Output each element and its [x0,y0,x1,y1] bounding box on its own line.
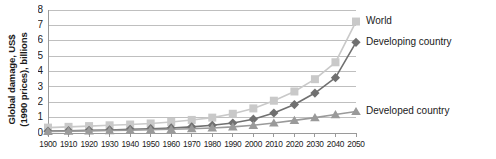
y-tick-label: 3 [38,81,43,92]
y-axis-title-line2: (1990 prices), billions [18,32,30,126]
x-tick-label: 1950 [142,139,160,149]
y-tick-label: 5 [38,50,43,61]
x-tick-label: 1960 [163,139,181,149]
data-point-marker [208,114,216,122]
y-tick-label: 8 [38,4,43,15]
series-line [48,22,356,128]
data-point-marker [270,97,278,105]
plot-area-wrapper: 0123456781900191019201930194019501960197… [38,0,496,159]
x-tick-label: 1900 [39,139,57,149]
data-point-marker [351,107,361,115]
y-tick-label: 4 [38,65,43,76]
y-tick-label: 2 [38,96,43,107]
x-tick-label: 2050 [347,139,365,149]
data-point-marker [331,58,339,66]
series-label: World [366,15,392,26]
data-point-marker [351,38,360,47]
y-tick-label: 6 [38,34,43,45]
data-point-marker [290,87,298,95]
x-tick-label: 1940 [122,139,140,149]
y-axis-title: Global damage, US$ (1990 prices), billio… [0,0,36,159]
chart-page: Global damage, US$ (1990 prices), billio… [0,0,496,159]
y-tick-label: 0 [38,127,43,138]
x-tick-label: 1930 [101,139,119,149]
x-tick-label: 1970 [183,139,201,149]
data-point-marker [229,110,237,118]
line-chart: 0123456781900191019201930194019501960197… [38,0,496,159]
data-point-marker [249,104,257,112]
y-axis-title-line1: Global damage, US$ [6,32,18,126]
series-label: Developed country [366,105,449,116]
x-tick-label: 1980 [204,139,222,149]
data-point-marker [311,75,319,83]
series-world [44,18,360,132]
series-line [48,111,356,131]
y-tick-label: 1 [38,111,43,122]
x-tick-label: 1990 [224,139,242,149]
series-developed-country [43,107,361,135]
x-tick-label: 2000 [245,139,263,149]
x-tick-label: 2020 [286,139,304,149]
data-point-marker [290,100,299,109]
x-tick-label: 2030 [306,139,324,149]
data-point-marker [269,108,278,117]
x-tick-label: 2010 [265,139,283,149]
x-tick-label: 1920 [80,139,98,149]
data-point-marker [352,18,360,26]
series-label: Developing country [366,36,452,47]
x-tick-label: 2040 [327,139,345,149]
y-tick-label: 7 [38,19,43,30]
x-tick-label: 1910 [60,139,78,149]
